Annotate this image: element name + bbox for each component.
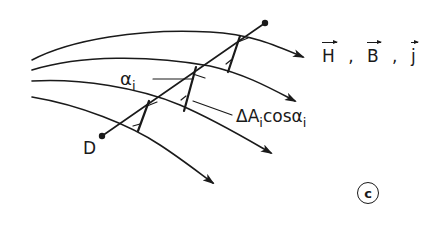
point-D-label: D [83, 140, 96, 157]
D-endpoint [99, 133, 105, 139]
j-vector: j [411, 48, 416, 65]
alpha-label: αi [120, 70, 136, 88]
area-cos-label: ΔAicosαi [236, 108, 306, 125]
field-line-4 [32, 97, 213, 183]
B-vector: B [367, 48, 379, 65]
area-element-2 [184, 67, 196, 111]
H-vector: H [322, 48, 335, 65]
field-line-1 [32, 31, 303, 60]
top-endpoint [262, 20, 268, 26]
panel-label-c: c [357, 182, 379, 204]
vector-labels: H , B , j [322, 48, 416, 65]
